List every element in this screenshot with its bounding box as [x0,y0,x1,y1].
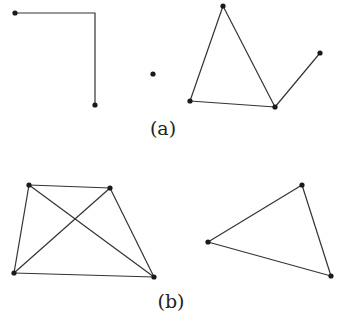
edge [14,188,110,273]
edge [190,101,275,107]
vertex [107,185,112,190]
edge [208,242,331,276]
panel-a-label: (a) [150,117,176,139]
edge [302,185,331,276]
vertex [92,102,97,107]
edge [14,185,29,273]
vertex [151,274,156,279]
edge [190,6,223,101]
path-edge [15,13,95,105]
vertex [272,104,277,109]
vertex [317,50,322,55]
panel-b: (b) [11,182,333,312]
vertex [220,3,225,8]
vertex [12,10,17,15]
vertex [328,273,333,278]
vertex [205,239,210,244]
edge [14,273,154,277]
triangle [205,182,333,278]
graph-figure: (a) (b) [0,0,341,332]
edge [110,188,154,277]
complete-graph-k4 [11,182,156,279]
vertex [11,270,16,275]
vertex [299,182,304,187]
isolated-vertex [150,71,155,76]
vertex [187,98,192,103]
triangle-with-pendant [187,3,322,109]
path-component-edges [15,13,95,105]
edge [275,53,320,107]
edge [223,6,275,107]
panel-a: (a) [12,3,322,139]
edge [29,185,110,188]
edge [29,185,154,277]
edge [208,185,302,242]
vertex [26,182,31,187]
panel-b-label: (b) [158,290,185,312]
